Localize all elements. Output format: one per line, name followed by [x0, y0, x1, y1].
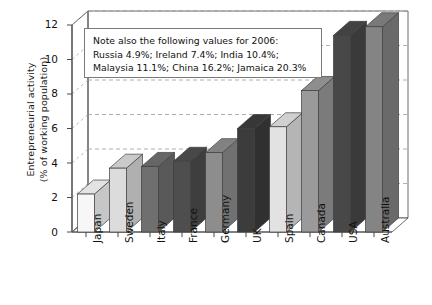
bar-uk: [238, 115, 271, 233]
y-tick-depth-8: [72, 80, 88, 94]
x-tick-label-italy: Italy: [155, 220, 167, 243]
x-tick-label-japan: Japan: [91, 214, 103, 243]
note-line-3: Malaysia 11.1%; China 16.2%; Jamaica 20.…: [93, 61, 321, 75]
bar-side-face: [255, 115, 271, 233]
bar-front-face: [238, 129, 255, 233]
x-tick-label-usa: USA: [347, 221, 359, 243]
bar-side-face: [351, 21, 367, 232]
note-line-1: Note also the following values for 2006:: [93, 34, 321, 48]
x-tick-label-sweden: Sweden: [123, 202, 135, 244]
x-tick-label-australia: Australia: [379, 197, 391, 243]
note-box: Note also the following values for 2006:…: [84, 28, 322, 78]
x-tick-label-uk: UK: [251, 228, 263, 243]
x-tick-label-france: France: [187, 208, 199, 243]
note-line-2: Russia 4.9%; Ireland 7.4%; India 10.4%;: [93, 48, 321, 62]
x-tick-label-canada: Canada: [315, 203, 327, 243]
y-tick-depth-6: [72, 115, 88, 129]
chart-figure: Entrepreneurial activity (% of working p…: [0, 0, 432, 305]
y-tick-depth-4: [72, 149, 88, 163]
bar-front-face: [334, 35, 351, 232]
x-tick-label-spain: Spain: [283, 214, 295, 243]
x-tick-label-germany: Germany: [219, 195, 231, 243]
bar-usa: [334, 21, 367, 232]
